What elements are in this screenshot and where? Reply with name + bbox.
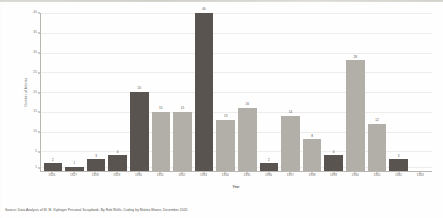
y-axis-tick-label: 15 bbox=[33, 111, 37, 114]
x-axis-tick: 1936 bbox=[258, 172, 280, 181]
x-axis-tick-mark bbox=[246, 172, 247, 174]
bar-value-label: 8 bbox=[311, 135, 313, 138]
bar[interactable]: 4 bbox=[108, 155, 127, 171]
bar-slot: 8 bbox=[301, 13, 323, 171]
bar-slot: 2 bbox=[42, 13, 64, 171]
x-axis-tick-mark bbox=[181, 172, 182, 174]
bar[interactable]: 1 bbox=[65, 167, 84, 171]
y-axis-tick-label: 30 bbox=[33, 51, 37, 54]
bar[interactable]: 15 bbox=[173, 112, 192, 171]
y-axis: 4035302520151051 bbox=[22, 13, 40, 172]
bar-slot: 4 bbox=[323, 13, 345, 171]
x-axis-tick-mark bbox=[116, 172, 117, 174]
y-axis-tick-label: 5 bbox=[35, 151, 37, 154]
x-axis-label: Year bbox=[40, 186, 432, 189]
x-axis-tick: 1931 bbox=[149, 172, 171, 181]
y-axis-tick-label: 1 bbox=[35, 166, 37, 169]
x-axis-tick-mark bbox=[398, 172, 399, 174]
bar[interactable]: 3 bbox=[389, 159, 408, 171]
x-axis-tick: 1934 bbox=[214, 172, 236, 181]
bar-slot: 4 bbox=[107, 13, 129, 171]
x-axis-tick: 1927 bbox=[63, 172, 85, 181]
bar[interactable]: 3 bbox=[87, 159, 106, 171]
page-top-rule bbox=[0, 0, 443, 2]
bar-value-label: 2 bbox=[52, 159, 54, 162]
source-note: Source: Data Analysis of W. M. Kiplinger… bbox=[5, 209, 438, 213]
bar[interactable]: 15 bbox=[152, 112, 171, 171]
x-axis-tick: 1939 bbox=[323, 172, 345, 181]
bar[interactable]: 13 bbox=[216, 120, 235, 171]
x-axis-tick-mark bbox=[51, 172, 52, 174]
bar-value-label: 20 bbox=[138, 87, 141, 90]
bar[interactable]: 16 bbox=[238, 108, 257, 171]
x-axis-tick: 1930 bbox=[128, 172, 150, 181]
bar[interactable]: 14 bbox=[281, 116, 300, 171]
bar-value-label: 40 bbox=[202, 8, 205, 11]
bar[interactable]: 2 bbox=[44, 163, 63, 171]
x-axis-tick-mark bbox=[355, 172, 356, 174]
chart-page: Number of Articles 4035302520151051 2134… bbox=[0, 0, 443, 218]
x-axis-tick: 1943 bbox=[409, 172, 431, 181]
x-axis-tick-mark bbox=[160, 172, 161, 174]
bar-slot: 3 bbox=[388, 13, 410, 171]
bar-slot: 15 bbox=[150, 13, 172, 171]
bar-slot: 15 bbox=[172, 13, 194, 171]
bar-value-label: 4 bbox=[333, 151, 335, 154]
x-axis-tick: 1933 bbox=[193, 172, 215, 181]
x-axis-tick-mark bbox=[268, 172, 269, 174]
bar-value-label: 13 bbox=[224, 115, 227, 118]
bar-value-label: 3 bbox=[398, 155, 400, 158]
bar-slot: 12 bbox=[366, 13, 388, 171]
bar-slot: 20 bbox=[128, 13, 150, 171]
x-axis-tick-mark bbox=[333, 172, 334, 174]
bar[interactable]: 8 bbox=[303, 139, 322, 171]
bar[interactable]: 12 bbox=[368, 124, 387, 171]
x-axis-tick-mark bbox=[95, 172, 96, 174]
x-axis: 1926192719281929193019311932193319341935… bbox=[40, 172, 432, 181]
x-axis-tick: 1929 bbox=[106, 172, 128, 181]
bar-slot: 13 bbox=[215, 13, 237, 171]
bar-value-label: 16 bbox=[246, 103, 249, 106]
bar-slot: 16 bbox=[236, 13, 258, 171]
x-axis-tick-mark bbox=[225, 172, 226, 174]
bar-slot: 40 bbox=[193, 13, 215, 171]
x-axis-tick-mark bbox=[138, 172, 139, 174]
bar[interactable]: 2 bbox=[260, 163, 279, 171]
x-axis-tick: 1926 bbox=[41, 172, 63, 181]
x-axis-tick: 1938 bbox=[301, 172, 323, 181]
x-axis-tick: 1940 bbox=[344, 172, 366, 181]
bar-value-label: 3 bbox=[95, 155, 97, 158]
x-axis-tick: 1928 bbox=[84, 172, 106, 181]
bar-value-label: 14 bbox=[289, 111, 292, 114]
bar[interactable]: 28 bbox=[346, 60, 365, 171]
bar[interactable]: 4 bbox=[324, 155, 343, 171]
bar-series: 21342015154013162148428123 bbox=[41, 13, 432, 171]
x-axis-tick-mark bbox=[311, 172, 312, 174]
y-axis-tick-label: 35 bbox=[33, 31, 37, 34]
y-axis-tick-label: 20 bbox=[33, 91, 37, 94]
y-axis-tick-label: 25 bbox=[33, 71, 37, 74]
bar[interactable]: 40 bbox=[195, 13, 214, 171]
x-axis-tick-mark bbox=[290, 172, 291, 174]
bar-value-label: 28 bbox=[354, 56, 357, 59]
x-axis-tick-mark bbox=[376, 172, 377, 174]
bar-value-label: 1 bbox=[74, 162, 76, 165]
bar-slot: 28 bbox=[345, 13, 367, 171]
bar-value-label: 15 bbox=[159, 107, 162, 110]
bar-slot bbox=[409, 13, 431, 171]
bar-slot: 2 bbox=[258, 13, 280, 171]
bar-slot: 3 bbox=[85, 13, 107, 171]
bar-value-label: 4 bbox=[117, 151, 119, 154]
y-axis-tick-label: 10 bbox=[33, 131, 37, 134]
bar-value-label: 12 bbox=[375, 119, 378, 122]
y-axis-tick-label: 40 bbox=[33, 11, 37, 14]
bar-value-label: 2 bbox=[268, 159, 270, 162]
plot-area: 21342015154013162148428123 bbox=[40, 13, 432, 172]
x-axis-tick: 1942 bbox=[388, 172, 410, 181]
bar[interactable]: 20 bbox=[130, 92, 149, 171]
bar-slot: 1 bbox=[64, 13, 86, 171]
x-axis-tick-mark bbox=[73, 172, 74, 174]
x-axis-tick: 1932 bbox=[171, 172, 193, 181]
x-axis-tick-mark bbox=[420, 172, 421, 174]
bar-slot: 14 bbox=[280, 13, 302, 171]
